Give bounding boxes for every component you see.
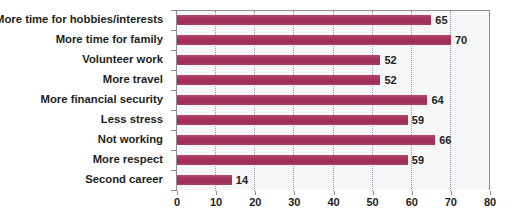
x-tick-label-50: 50 [358, 196, 388, 208]
x-tick-mark-20 [255, 191, 256, 195]
y-tick-mark [171, 30, 177, 31]
y-tick-mark [171, 110, 177, 111]
chart-overlay: 65705252645966591401020304050607080 [0, 0, 507, 216]
y-tick-mark [171, 130, 177, 131]
x-tick-label-70: 70 [436, 196, 466, 208]
x-tick-label-80: 80 [475, 196, 505, 208]
x-tick-mark-10 [216, 191, 217, 195]
x-tick-label-10: 10 [201, 196, 231, 208]
y-tick-mark [171, 170, 177, 171]
x-tick-mark-80 [490, 191, 491, 195]
bar-value-label: 64 [431, 95, 443, 105]
bar [177, 15, 431, 25]
x-tick-label-30: 30 [279, 196, 309, 208]
x-tick-label-20: 20 [240, 196, 270, 208]
y-tick-mark [171, 50, 177, 51]
bar-value-label: 52 [384, 75, 396, 85]
bar [177, 75, 380, 85]
y-tick-mark [171, 150, 177, 151]
bar-chart: More time for hobbies/interestsMore time… [0, 0, 507, 216]
bar [177, 155, 408, 165]
y-tick-mark [171, 70, 177, 71]
bar [177, 175, 232, 185]
bar [177, 55, 380, 65]
bar-value-label: 59 [412, 155, 424, 165]
x-tick-mark-60 [412, 191, 413, 195]
y-tick-mark [171, 10, 177, 11]
bar [177, 115, 408, 125]
bar-value-label: 66 [439, 135, 451, 145]
bar-value-label: 59 [412, 115, 424, 125]
bar [177, 35, 451, 45]
x-tick-label-40: 40 [319, 196, 349, 208]
x-tick-mark-0 [177, 191, 178, 195]
bar-value-label: 70 [455, 35, 467, 45]
bar-value-label: 14 [236, 175, 248, 185]
y-tick-mark [171, 90, 177, 91]
x-tick-mark-50 [373, 191, 374, 195]
x-tick-mark-30 [294, 191, 295, 195]
bar-value-label: 52 [384, 55, 396, 65]
x-tick-label-60: 60 [397, 196, 427, 208]
bar [177, 95, 427, 105]
x-tick-label-0: 0 [162, 196, 192, 208]
bar [177, 135, 435, 145]
x-tick-mark-40 [334, 191, 335, 195]
bar-value-label: 65 [435, 15, 447, 25]
x-tick-mark-70 [451, 191, 452, 195]
